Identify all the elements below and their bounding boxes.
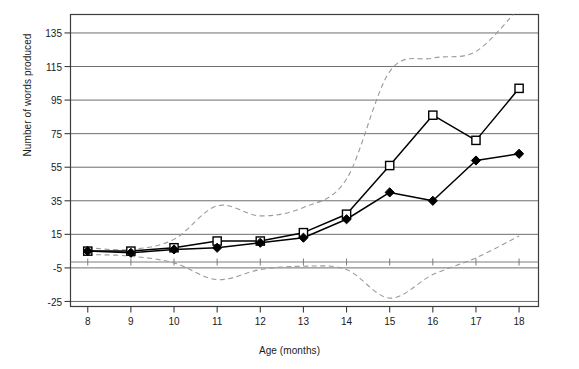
x-tick-label: 15 [384,316,395,327]
series-band-2 [88,8,519,250]
marker-open-square [515,84,523,92]
plot-area [0,0,579,369]
y-tick-label: -25 [24,296,62,307]
plot-frame-rect [71,15,539,307]
x-tick-label: 8 [85,316,91,327]
y-tick-label: 95 [24,95,62,106]
series-line-0 [88,88,519,251]
x-tick-label: 11 [212,316,222,327]
x-tick-label: 18 [514,316,525,327]
chart-container: Number of words produced Age (months) -2… [0,0,579,369]
y-tick-label: -5 [24,262,62,273]
y-tick-label: 115 [24,61,62,72]
x-tick-label: 10 [168,316,179,327]
y-tick-label: 15 [24,229,62,240]
x-tick-label: 12 [255,316,266,327]
plot-frame [71,15,539,307]
markers-group [83,84,524,257]
marker-filled-diamond [514,149,523,158]
x-tick-label: 14 [341,316,352,327]
marker-open-square [472,136,480,144]
series-band-3 [88,236,519,298]
marker-open-square [386,161,394,169]
x-tick-label: 13 [298,316,309,327]
y-tick-label: 55 [24,162,62,173]
y-tick-label: 135 [24,28,62,39]
y-tick-label: 75 [24,128,62,139]
band-series-group [88,8,519,298]
marker-open-square [429,111,437,119]
x-tick-label: 9 [128,316,134,327]
axis-ticks-group [65,33,539,313]
x-tick-label: 17 [470,316,481,327]
marker-filled-diamond [385,188,394,197]
y-tick-label: 35 [24,195,62,206]
x-tick-label: 16 [427,316,438,327]
